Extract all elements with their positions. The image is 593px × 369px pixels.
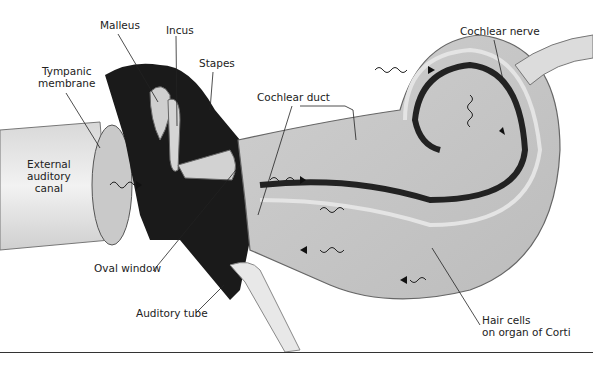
bottom-rule [0, 352, 593, 353]
label-cochlear-duct: Cochlear duct [257, 91, 330, 103]
label-tympanic-membrane: Tympanic membrane [38, 65, 95, 89]
label-hair-cells: Hair cells on organ of Corti [482, 314, 571, 338]
label-external-auditory-canal: External auditory canal [27, 158, 71, 194]
auditory-tube [230, 262, 300, 352]
label-incus: Incus [166, 24, 194, 36]
label-malleus: Malleus [100, 19, 140, 31]
label-oval-window: Oval window [94, 262, 161, 274]
label-auditory-tube: Auditory tube [136, 307, 208, 319]
incus [168, 99, 180, 171]
label-stapes: Stapes [199, 57, 235, 69]
cochlear-nerve [515, 35, 593, 85]
label-cochlear-nerve: Cochlear nerve [460, 25, 540, 37]
cochlea [238, 35, 560, 299]
